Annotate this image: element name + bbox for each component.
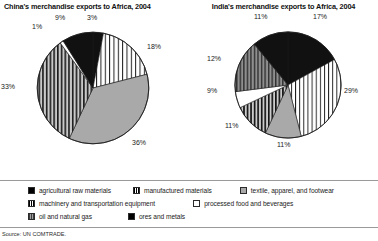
legend-item-machinery-transportation-equipment[interactable]: machinery and transportation equipment (28, 200, 155, 207)
legend-label-agricultural-raw-materials: agricultural raw materials (39, 187, 111, 194)
legend-label-ores-metals: ores and metals (139, 213, 185, 220)
pie-india-svg (229, 26, 347, 144)
legend-swatch-ores-metals (128, 213, 135, 220)
legend-label-textile-apparel-footwear: textile, apparel, and footwear (251, 187, 334, 194)
pie-china: 3% 18% 36% 33% 1% 9% (31, 26, 155, 150)
pie-china-svg (31, 26, 155, 150)
figure-root: China's merchandise exports to Africa, 2… (0, 0, 378, 241)
legend-swatch-processed-food-beverages (193, 200, 200, 207)
legend-row-2: machinery and transportation equipment p… (0, 197, 378, 210)
chart-panel-india: India's merchandise exports to Africa, 2… (189, 0, 378, 180)
pct-india-29: 29% (344, 87, 358, 94)
legend-row-3: oil and natural gas ores and metals (0, 210, 378, 223)
pct-india-12: 12% (207, 55, 221, 62)
chart-legend: agricultural raw materials manufactured … (0, 180, 378, 228)
pct-india-11b: 11% (225, 122, 239, 129)
legend-label-processed-food-beverages: processed food and beverages (204, 200, 293, 207)
legend-item-textile-apparel-footwear[interactable]: textile, apparel, and footwear (240, 187, 334, 194)
pct-china-18: 18% (147, 43, 161, 50)
chart-panel-china: China's merchandise exports to Africa, 2… (0, 0, 189, 180)
pct-india-9: 9% (207, 87, 217, 94)
pct-india-11c: 11% (254, 13, 268, 20)
legend-swatch-manufactured-materials (133, 187, 140, 194)
chart-title-india: India's merchandise exports to Africa, 2… (189, 2, 378, 11)
legend-swatch-agricultural-raw-materials (28, 187, 35, 194)
chart-title-china: China's merchandise exports to Africa, 2… (0, 2, 193, 11)
legend-item-oil-natural-gas[interactable]: oil and natural gas (28, 213, 92, 220)
legend-item-manufactured-materials[interactable]: manufactured materials (133, 187, 212, 194)
source-note: Source: UN COMTRADE. (2, 231, 66, 237)
legend-label-manufactured-materials: manufactured materials (144, 187, 212, 194)
legend-label-machinery-transportation-equipment: machinery and transportation equipment (39, 200, 155, 207)
legend-item-processed-food-beverages[interactable]: processed food and beverages (193, 200, 293, 207)
legend-swatch-textile-apparel-footwear (240, 187, 247, 194)
pie-india: 17% 29% 11% 11% 9% 12% 11% (229, 26, 347, 144)
legend-label-oil-natural-gas: oil and natural gas (39, 213, 92, 220)
pct-china-9: 9% (55, 14, 65, 21)
pct-china-1: 1% (32, 23, 42, 30)
pct-china-3: 3% (87, 14, 97, 21)
legend-swatch-oil-natural-gas (28, 213, 35, 220)
legend-row-1: agricultural raw materials manufactured … (0, 184, 378, 197)
legend-item-agricultural-raw-materials[interactable]: agricultural raw materials (28, 187, 111, 194)
pct-china-33: 33% (1, 83, 15, 90)
pct-india-17: 17% (313, 13, 327, 20)
pct-china-36: 36% (132, 139, 146, 146)
legend-swatch-machinery-transportation-equipment (28, 200, 35, 207)
pct-india-11a: 11% (277, 141, 291, 148)
legend-item-ores-metals[interactable]: ores and metals (128, 213, 185, 220)
